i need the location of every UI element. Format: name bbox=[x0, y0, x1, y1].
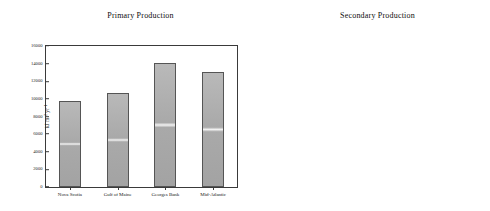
bar-mid-atlantic bbox=[202, 72, 224, 187]
x-label-mid-atlantic: Mid-Atlantic bbox=[189, 192, 237, 197]
y-tick-label: 14000 bbox=[31, 61, 46, 66]
y-tick-label: 10000 bbox=[31, 97, 46, 102]
y-tick-label: 6000 bbox=[33, 132, 46, 137]
x-label-georges-bank: Georges Bank bbox=[142, 192, 190, 197]
x-tick bbox=[213, 187, 214, 190]
y-tick-label: 16000 bbox=[31, 44, 46, 49]
bar-nova-scotia bbox=[59, 101, 81, 187]
plot-area-primary: kJ m-2 yr-1 0 2000 4000 6000 8000 10000 … bbox=[45, 45, 238, 188]
chart-title-secondary: Secondary Production bbox=[245, 11, 490, 20]
x-label-gulf-of-maine: Gulf of Maine bbox=[94, 192, 142, 197]
y-tick-label: 4000 bbox=[33, 149, 46, 154]
x-label-nova-scotia: Nova Scotia bbox=[46, 192, 94, 197]
x-tick bbox=[118, 187, 119, 190]
primary-production-panel: Primary Production kJ m-2 yr-1 0 2000 40… bbox=[0, 0, 245, 211]
chart-title-primary: Primary Production bbox=[0, 11, 263, 20]
secondary-production-panel: Secondary Production kJ m-2 yr-1 0 200 4… bbox=[245, 0, 490, 211]
y-tick-label: 2000 bbox=[33, 167, 46, 172]
x-axis-labels-primary: Nova Scotia Gulf of Maine Georges Bank M… bbox=[46, 192, 237, 197]
y-tick-label: 12000 bbox=[31, 79, 46, 84]
figure-two-panel-bar-charts: Primary Production kJ m-2 yr-1 0 2000 40… bbox=[0, 0, 490, 211]
bar-groups-primary bbox=[46, 46, 237, 187]
y-tick-label: 8000 bbox=[33, 114, 46, 119]
x-tick bbox=[165, 187, 166, 190]
bar-gulf-of-maine bbox=[107, 93, 129, 187]
x-tick bbox=[70, 187, 71, 190]
bar-georges-bank bbox=[154, 63, 176, 187]
bar-group bbox=[46, 46, 94, 187]
bar-group bbox=[142, 46, 190, 187]
bar-group bbox=[189, 46, 237, 187]
bar-group bbox=[94, 46, 142, 187]
